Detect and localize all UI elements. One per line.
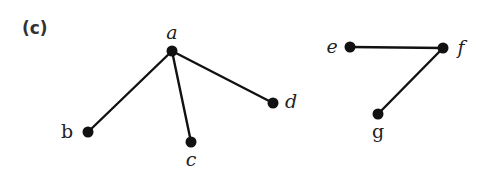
edge-a-d xyxy=(172,51,273,103)
node-label-f: f xyxy=(455,36,467,58)
edge-a-b xyxy=(88,51,172,132)
edge-a-c xyxy=(172,51,191,142)
node-label-g: g xyxy=(372,120,384,142)
graph-diagram: (c) abcdefg xyxy=(0,0,483,173)
node-e xyxy=(345,42,356,53)
node-c xyxy=(186,137,197,148)
panel-label: (c) xyxy=(22,18,48,38)
labels-layer: abcdefg xyxy=(61,21,468,170)
node-b xyxy=(83,127,94,138)
node-label-a: a xyxy=(166,21,177,43)
node-g xyxy=(373,109,384,120)
node-label-c: c xyxy=(186,148,197,170)
edges-layer xyxy=(88,47,443,142)
nodes-layer xyxy=(83,42,449,148)
node-a xyxy=(167,46,178,57)
node-f xyxy=(438,43,449,54)
node-d xyxy=(268,98,279,109)
edge-e-f xyxy=(350,47,443,48)
edge-f-g xyxy=(378,48,443,114)
node-label-e: e xyxy=(326,35,337,57)
node-label-b: b xyxy=(61,120,73,142)
node-label-d: d xyxy=(285,90,297,112)
